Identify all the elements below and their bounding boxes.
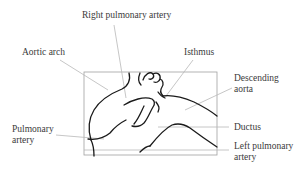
head-vessel-1: [139, 73, 141, 85]
label-isthmus: Isthmus: [184, 47, 214, 58]
label-pulmonary-artery: Pulmonary artery: [12, 124, 54, 145]
pulmonary-trunk-outline: [124, 98, 154, 126]
pulmonary-artery-outline: [91, 140, 94, 156]
label-descending-aorta-line1: Descending: [234, 73, 279, 84]
leader-isthmus: [166, 60, 193, 96]
anatomy-diagram: Right pulmonary artery Aortic arch Isthm…: [0, 0, 304, 172]
label-pulmonary-artery-line1: Pulmonary: [12, 124, 54, 135]
head-vessel-2: [143, 73, 154, 80]
vessel-outlines: [88, 73, 217, 156]
label-descending-aorta-line2: aorta: [234, 84, 279, 95]
label-aortic-arch: Aortic arch: [22, 47, 65, 58]
label-pulmonary-artery-line2: artery: [12, 135, 54, 146]
label-ductus: Ductus: [234, 122, 261, 133]
label-left-pulmonary-artery-line1: Left pulmonary: [234, 141, 293, 152]
image-frame: [84, 72, 217, 155]
label-descending-aorta: Descending aorta: [234, 73, 279, 94]
leader-lines: [56, 25, 232, 150]
leader-descending-aorta: [185, 88, 232, 110]
ductus-outline: [150, 124, 217, 147]
label-left-pulmonary-artery-line2: artery: [234, 152, 293, 163]
label-left-pulmonary-artery: Left pulmonary artery: [234, 141, 293, 162]
label-right-pulmonary-artery: Right pulmonary artery: [82, 10, 171, 21]
